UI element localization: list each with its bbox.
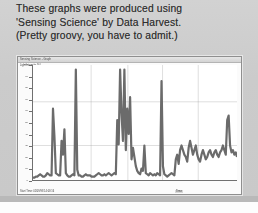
y-axis-tick-label: 80 <box>25 87 28 90</box>
y-axis-tick-label: 90 <box>25 75 28 78</box>
page-bottom-margin <box>0 202 258 213</box>
y-axis-tick-label: 40 <box>25 133 28 136</box>
x-axis-label: Time <box>175 190 183 193</box>
y-axis-tick-label: 0 <box>27 180 28 183</box>
plot-area[interactable] <box>32 65 237 181</box>
caption-block: These graphs were produced using 'Sensin… <box>16 2 258 46</box>
y-axis: 0102030405060708090100 <box>18 65 32 181</box>
scanned-page: These graphs were produced using 'Sensin… <box>0 0 258 213</box>
y-axis-tick-label: 70 <box>25 99 28 102</box>
chart-series-line <box>33 70 237 178</box>
y-axis-tick-label: 50 <box>25 122 28 125</box>
y-axis-tick-label: 100 <box>24 64 28 67</box>
y-axis-tick <box>29 181 32 182</box>
caption-line-2: 'Sensing Science' by Data Harvest. <box>16 16 258 30</box>
chart-trace-svg <box>33 65 237 180</box>
caption-line-3: (Pretty groovy, you have to admit.) <box>16 29 258 43</box>
graph-window-titlebar[interactable]: Sensing Science - Graph <box>18 57 241 63</box>
caption-line-1: These graphs were produced using <box>16 2 258 16</box>
start-time-status: Start Time: 01/09/98 14:03:16 <box>20 190 54 193</box>
y-axis-tick-label: 30 <box>25 145 28 148</box>
y-axis-tick-label: 10 <box>25 168 28 171</box>
graph-window[interactable]: Sensing Science - Graph Light Intensity … <box>17 56 242 195</box>
y-axis-tick-label: 20 <box>25 157 28 160</box>
y-axis-tick-label: 60 <box>25 110 28 113</box>
